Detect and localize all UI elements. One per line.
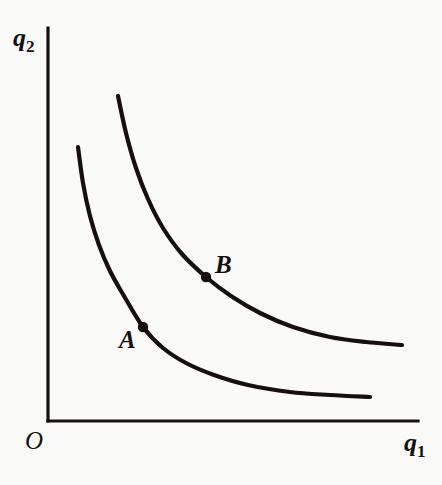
- data-point-a: [138, 322, 148, 332]
- y-axis-label-base: q: [13, 23, 26, 52]
- y-axis-label-subscript: 2: [26, 37, 35, 56]
- indifference-curve-plot: [0, 0, 442, 485]
- figure-container: q2 q1 O A B: [0, 0, 442, 485]
- y-axis-label: q2: [13, 25, 35, 55]
- axes-group: [48, 28, 418, 421]
- x-axis-label-subscript: 1: [417, 442, 426, 461]
- upper-indifference-curve: [118, 96, 402, 345]
- point-label-a: A: [119, 327, 136, 352]
- x-axis-label-base: q: [404, 428, 417, 457]
- x-axis-label: q1: [404, 430, 426, 460]
- point-markers-group: [138, 272, 211, 332]
- point-label-b: B: [215, 252, 232, 277]
- data-point-b: [201, 272, 211, 282]
- origin-label: O: [25, 428, 43, 453]
